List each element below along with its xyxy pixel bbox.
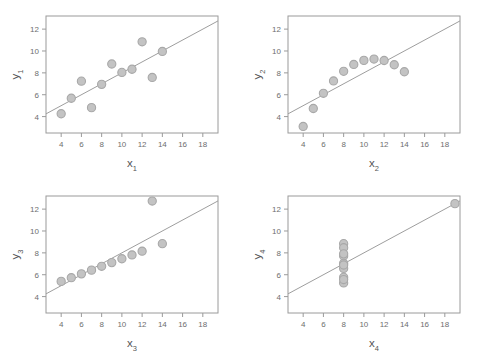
panel-3-ytick-label: 12 bbox=[30, 205, 39, 214]
panel-1-data-point bbox=[148, 73, 156, 81]
panel-1-data-point bbox=[108, 60, 116, 68]
panel-2-data-point bbox=[370, 55, 378, 63]
panel-3-plot: 46810121416184681012x3y3 bbox=[0, 180, 241, 360]
panel-2-plot: 46810121416184681012x2y2 bbox=[242, 0, 483, 180]
panel-2-xtick-label: 6 bbox=[321, 140, 326, 149]
panel-1-xtick-label: 16 bbox=[178, 140, 187, 149]
panel-1-ytick-label: 8 bbox=[35, 69, 40, 78]
panel-2-ytick-label: 12 bbox=[272, 25, 281, 34]
panel-2-xtick-label: 18 bbox=[440, 140, 449, 149]
panel-4-ytick-label: 6 bbox=[277, 271, 282, 280]
panel-1-data-point bbox=[67, 94, 75, 102]
panel-1-ytick-label: 10 bbox=[30, 47, 39, 56]
panel-3-xaxis-label: x3 bbox=[127, 337, 137, 353]
panel-1-data-point bbox=[77, 77, 85, 85]
panel-2-frame bbox=[288, 16, 460, 133]
panel-4-ytick-label: 10 bbox=[272, 227, 281, 236]
panel-1-xtick-label: 12 bbox=[138, 140, 147, 149]
panel-3-data-point bbox=[118, 255, 126, 263]
panel-2-xtick-label: 10 bbox=[359, 140, 368, 149]
panel-3-data-point bbox=[67, 274, 75, 282]
panel-4-xtick-label: 10 bbox=[359, 320, 368, 329]
panel-2-ytick-label: 8 bbox=[277, 69, 282, 78]
panel-1: 46810121416184681012x1y1 bbox=[0, 0, 241, 180]
panel-4-xaxis-label: x4 bbox=[369, 337, 379, 353]
panel-3-xtick-label: 14 bbox=[158, 320, 167, 329]
panel-1-data-point bbox=[128, 65, 136, 73]
panel-2-data-point bbox=[329, 77, 337, 85]
panel-2-ytick-label: 6 bbox=[277, 91, 282, 100]
panel-1-ytick-label: 6 bbox=[35, 91, 40, 100]
panel-2-xtick-label: 12 bbox=[380, 140, 389, 149]
panel-2-data-point bbox=[309, 104, 317, 112]
panel-4-xtick-label: 4 bbox=[301, 320, 306, 329]
panel-4-xtick-label: 8 bbox=[341, 320, 346, 329]
panel-3-data-point bbox=[57, 277, 65, 285]
panel-2-data-point bbox=[319, 89, 327, 97]
panel-4-xtick-label: 6 bbox=[321, 320, 326, 329]
panel-4-xtick-label: 14 bbox=[400, 320, 409, 329]
panel-2-data-point bbox=[350, 60, 358, 68]
panel-3-ytick-label: 6 bbox=[35, 271, 40, 280]
panel-3-data-point bbox=[138, 247, 146, 255]
panel-4-regression-line bbox=[288, 201, 460, 294]
panel-2: 46810121416184681012x2y2 bbox=[242, 0, 483, 180]
panel-3-data-point bbox=[108, 258, 116, 266]
panel-4-data-point bbox=[340, 250, 348, 258]
panel-1-data-point bbox=[158, 47, 166, 55]
panel-3: 46810121416184681012x3y3 bbox=[0, 180, 241, 360]
panel-4-data-point bbox=[340, 275, 348, 283]
panel-2-ytick-label: 10 bbox=[272, 47, 281, 56]
panel-2-data-point bbox=[360, 56, 368, 64]
panel-3-xtick-label: 6 bbox=[79, 320, 84, 329]
panel-2-data-point bbox=[390, 61, 398, 69]
panel-3-yaxis-label: y3 bbox=[9, 250, 25, 260]
panel-1-data-point bbox=[87, 104, 95, 112]
panel-3-ytick-label: 8 bbox=[35, 249, 40, 258]
panel-2-data-point bbox=[299, 122, 307, 130]
panel-3-xtick-label: 12 bbox=[138, 320, 147, 329]
panel-4-ytick-label: 12 bbox=[272, 205, 281, 214]
panel-4-xtick-label: 18 bbox=[440, 320, 449, 329]
panel-1-xaxis-label: x1 bbox=[127, 157, 137, 173]
panel-2-xtick-label: 4 bbox=[301, 140, 306, 149]
panel-4-xtick-label: 12 bbox=[380, 320, 389, 329]
panel-2-regression-line bbox=[288, 21, 460, 114]
figure-canvas: 46810121416184681012x1y1 468101214161846… bbox=[0, 0, 483, 360]
panel-3-xtick-label: 16 bbox=[178, 320, 187, 329]
panel-4-yaxis-label: y4 bbox=[251, 250, 267, 260]
panel-4-frame bbox=[288, 196, 460, 313]
panel-2-data-point bbox=[400, 68, 408, 76]
panel-4-data-point bbox=[451, 200, 459, 208]
panel-3-data-point bbox=[128, 251, 136, 259]
panel-2-xaxis-label: x2 bbox=[369, 157, 379, 173]
panel-2-xtick-label: 14 bbox=[400, 140, 409, 149]
panel-1-xtick-label: 18 bbox=[198, 140, 207, 149]
panel-3-xtick-label: 18 bbox=[198, 320, 207, 329]
panel-1-ytick-label: 12 bbox=[30, 25, 39, 34]
panel-1-xtick-label: 4 bbox=[59, 140, 64, 149]
panel-2-data-point bbox=[380, 56, 388, 64]
panel-2-xtick-label: 16 bbox=[420, 140, 429, 149]
panel-4: 46810121416184681012x4y4 bbox=[242, 180, 483, 360]
panel-3-xtick-label: 4 bbox=[59, 320, 64, 329]
panel-1-frame bbox=[46, 16, 218, 133]
panel-3-data-point bbox=[98, 262, 106, 270]
panel-1-xtick-label: 10 bbox=[117, 140, 126, 149]
panel-3-data-point bbox=[77, 270, 85, 278]
panel-1-yaxis-label: y1 bbox=[9, 70, 25, 80]
panel-4-ytick-label: 4 bbox=[277, 293, 282, 302]
panel-3-data-point bbox=[158, 240, 166, 248]
panel-4-data-point bbox=[340, 261, 348, 269]
panel-4-xtick-label: 16 bbox=[420, 320, 429, 329]
panel-2-yaxis-label: y2 bbox=[251, 70, 267, 80]
panel-1-data-point bbox=[118, 68, 126, 76]
panel-3-xtick-label: 8 bbox=[99, 320, 104, 329]
panel-4-ytick-label: 8 bbox=[277, 249, 282, 258]
panel-3-ytick-label: 4 bbox=[35, 293, 40, 302]
panel-1-xtick-label: 8 bbox=[99, 140, 104, 149]
panel-1-plot: 46810121416184681012x1y1 bbox=[0, 0, 241, 180]
panel-1-data-point bbox=[138, 38, 146, 46]
panel-2-data-point bbox=[340, 67, 348, 75]
panel-4-plot: 46810121416184681012x4y4 bbox=[242, 180, 483, 360]
